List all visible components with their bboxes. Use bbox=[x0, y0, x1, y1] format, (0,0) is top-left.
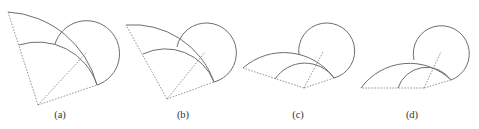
sector-left-edge bbox=[8, 12, 38, 105]
sector-left-edge bbox=[126, 25, 167, 99]
sector-bisector bbox=[167, 52, 205, 99]
panel-label-d: (d) bbox=[406, 109, 418, 120]
inner-arc bbox=[275, 63, 334, 79]
sector-right-edge bbox=[167, 82, 214, 99]
panel-label-b: (b) bbox=[177, 109, 189, 120]
outer-arc bbox=[243, 53, 334, 78]
circle-arc bbox=[55, 21, 120, 85]
panel-label-c: (c) bbox=[292, 109, 304, 120]
panel-b bbox=[126, 23, 236, 99]
sector-right-edge bbox=[424, 80, 451, 88]
outer-arc bbox=[8, 12, 97, 85]
outer-arc bbox=[126, 25, 214, 82]
sector-left-edge bbox=[243, 68, 304, 88]
sector-bisector bbox=[38, 52, 87, 105]
panel-label-a: (a) bbox=[54, 109, 66, 120]
inner-arc bbox=[19, 42, 97, 85]
inner-arc bbox=[398, 67, 451, 88]
panel-a bbox=[8, 12, 120, 105]
panel-d bbox=[361, 26, 469, 88]
panel-c bbox=[243, 23, 355, 88]
